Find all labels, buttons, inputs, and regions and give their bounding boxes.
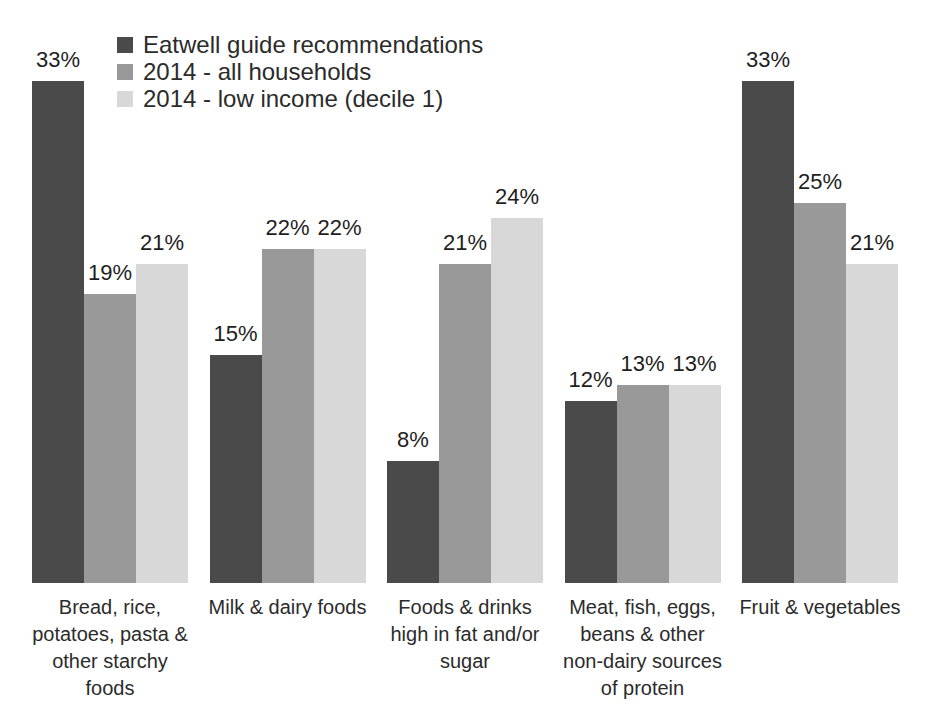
bar-value-label: 33%: [13, 48, 103, 72]
bar-value-label: 13%: [650, 352, 740, 376]
bar-group4-series1: [565, 401, 617, 583]
bar-group5-series3: [846, 264, 898, 583]
legend-label-2014-all-households: 2014 - all households: [143, 58, 371, 85]
bar-value-label: 21%: [117, 231, 207, 255]
bar-group3-series1: [387, 461, 439, 583]
legend-label-eatwell-recommendations: Eatwell guide recommendations: [143, 31, 483, 58]
legend-swatch-dark-icon: [117, 37, 133, 53]
bar-group2-series2: [262, 249, 314, 583]
bar-group3-series2: [439, 264, 491, 583]
bar-group4-series3: [669, 385, 721, 583]
legend-label-2014-low-income: 2014 - low income (decile 1): [143, 85, 443, 112]
bar-group1-series1: [32, 81, 84, 583]
chart-legend: Eatwell guide recommendations 2014 - all…: [117, 31, 483, 112]
legend-item-eatwell-recommendations: Eatwell guide recommendations: [117, 31, 483, 58]
category-label: Fruit & vegetables: [715, 594, 925, 621]
bar-value-label: 22%: [295, 216, 385, 240]
bar-group1-series3: [136, 264, 188, 583]
bar-value-label: 33%: [723, 48, 813, 72]
legend-swatch-medium-icon: [117, 64, 133, 80]
legend-item-2014-all-households: 2014 - all households: [117, 58, 483, 85]
bar-value-label: 24%: [472, 185, 562, 209]
legend-swatch-light-icon: [117, 91, 133, 107]
bar-value-label: 25%: [775, 170, 865, 194]
bar-group1-series2: [84, 294, 136, 583]
bar-group4-series2: [617, 385, 669, 583]
grouped-bar-chart: 33%19%21%Bread, rice, potatoes, pasta & …: [0, 0, 933, 722]
bar-group2-series3: [314, 249, 366, 583]
bar-group3-series3: [491, 218, 543, 583]
bar-group5-series1: [742, 81, 794, 583]
bar-group5-series2: [794, 203, 846, 583]
bar-group2-series1: [210, 355, 262, 583]
legend-item-2014-low-income: 2014 - low income (decile 1): [117, 85, 483, 112]
bar-value-label: 21%: [827, 231, 917, 255]
